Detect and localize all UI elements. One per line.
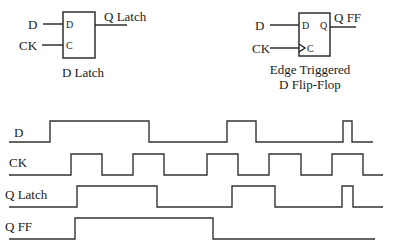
ff-output-label: Q FF (334, 10, 361, 25)
latch-caption: D Latch (62, 65, 105, 80)
wave-label-d: D (14, 125, 23, 140)
timing-diagram-canvas: D CK D C Q Latch D Latch D CK D C Q Q FF… (0, 0, 393, 249)
waveform-q-latch (9, 186, 383, 207)
wave-label-q-latch: Q Latch (5, 187, 48, 202)
d-flipflop-block: D CK D C Q Q FF Edge Triggered D Flip-Fl… (252, 10, 361, 92)
latch-input-d-label: D (28, 17, 37, 32)
latch-pin-d: D (66, 19, 73, 30)
waveform-q-ff (9, 218, 375, 239)
waveform-d (9, 121, 373, 142)
waveforms: D CK Q Latch Q FF (5, 121, 383, 239)
ff-pin-d: D (302, 20, 309, 31)
latch-input-ck-label: CK (19, 38, 38, 53)
wave-label-ck: CK (9, 155, 28, 170)
waveform-ck (9, 154, 383, 175)
wave-label-q-ff: Q FF (5, 219, 32, 234)
ff-input-ck-label: CK (252, 41, 271, 56)
d-latch-block: D CK D C Q Latch D Latch (19, 9, 147, 80)
latch-output-label: Q Latch (104, 9, 147, 24)
ff-caption-line1: Edge Triggered (270, 62, 351, 77)
ff-pin-c: C (307, 43, 314, 54)
latch-pin-c: C (66, 40, 73, 51)
ff-caption-line2: D Flip-Flop (279, 77, 341, 92)
ff-input-d-label: D (255, 18, 264, 33)
ff-pin-q: Q (320, 20, 328, 31)
